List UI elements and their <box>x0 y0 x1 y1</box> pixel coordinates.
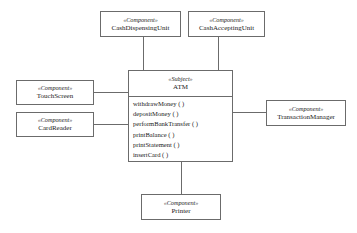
component-cash-dispensing-unit[interactable]: «Component» CashDispensingUnit <box>100 11 181 37</box>
component-touch-screen[interactable]: «Component» TouchScreen <box>16 80 94 105</box>
component-name-label: Printer <box>171 207 190 216</box>
edge-atm-transactionmanager-horizontal <box>232 112 266 113</box>
component-stereotype-label: «Component» <box>38 84 73 92</box>
subject-class-header: «Subject» ATM <box>129 71 232 97</box>
operation-item: performBankTransfer ( ) <box>133 119 232 129</box>
component-cash-accepting-unit[interactable]: «Component» CashAcceptingUnit <box>188 11 265 37</box>
component-name-label: CardReader <box>38 124 71 133</box>
component-stereotype-label: «Component» <box>289 105 324 113</box>
subject-stereotype-label: «Subject» <box>168 75 192 83</box>
edge-atm-cashacceptingunit-vertical <box>218 37 219 70</box>
subject-class-atm[interactable]: «Subject» ATM withdrawMoney ( ) depositM… <box>128 70 233 162</box>
component-name-label: CashAcceptingUnit <box>199 24 254 33</box>
subject-operations-compartment: withdrawMoney ( ) depositMoney ( ) perfo… <box>129 97 232 161</box>
operation-item: printStatement ( ) <box>133 140 232 150</box>
subject-name-label: ATM <box>173 83 188 92</box>
component-stereotype-label: «Component» <box>164 199 199 207</box>
operation-item: insertCard ( ) <box>133 150 232 160</box>
operation-item: withdrawMoney ( ) <box>133 99 232 109</box>
component-printer[interactable]: «Component» Printer <box>141 194 221 220</box>
edge-atm-printer-vertical <box>181 162 182 194</box>
component-card-reader[interactable]: «Component» CardReader <box>16 112 94 137</box>
edge-atm-cashdispensingunit-vertical <box>143 37 144 70</box>
component-stereotype-label: «Component» <box>209 16 244 24</box>
component-name-label: CashDispensingUnit <box>112 24 170 33</box>
component-name-label: TouchScreen <box>37 92 73 101</box>
component-transaction-manager[interactable]: «Component» TransactionManager <box>266 100 346 126</box>
operation-item: printBalance ( ) <box>133 130 232 140</box>
component-stereotype-label: «Component» <box>38 116 73 124</box>
operation-item: depositMoney ( ) <box>133 109 232 119</box>
edge-atm-touchscreen-horizontal <box>94 92 129 93</box>
component-stereotype-label: «Component» <box>123 16 158 24</box>
edge-atm-cardreader-horizontal <box>94 124 129 125</box>
component-name-label: TransactionManager <box>277 113 335 122</box>
uml-diagram-canvas: «Component» CashDispensingUnit «Componen… <box>0 0 357 233</box>
